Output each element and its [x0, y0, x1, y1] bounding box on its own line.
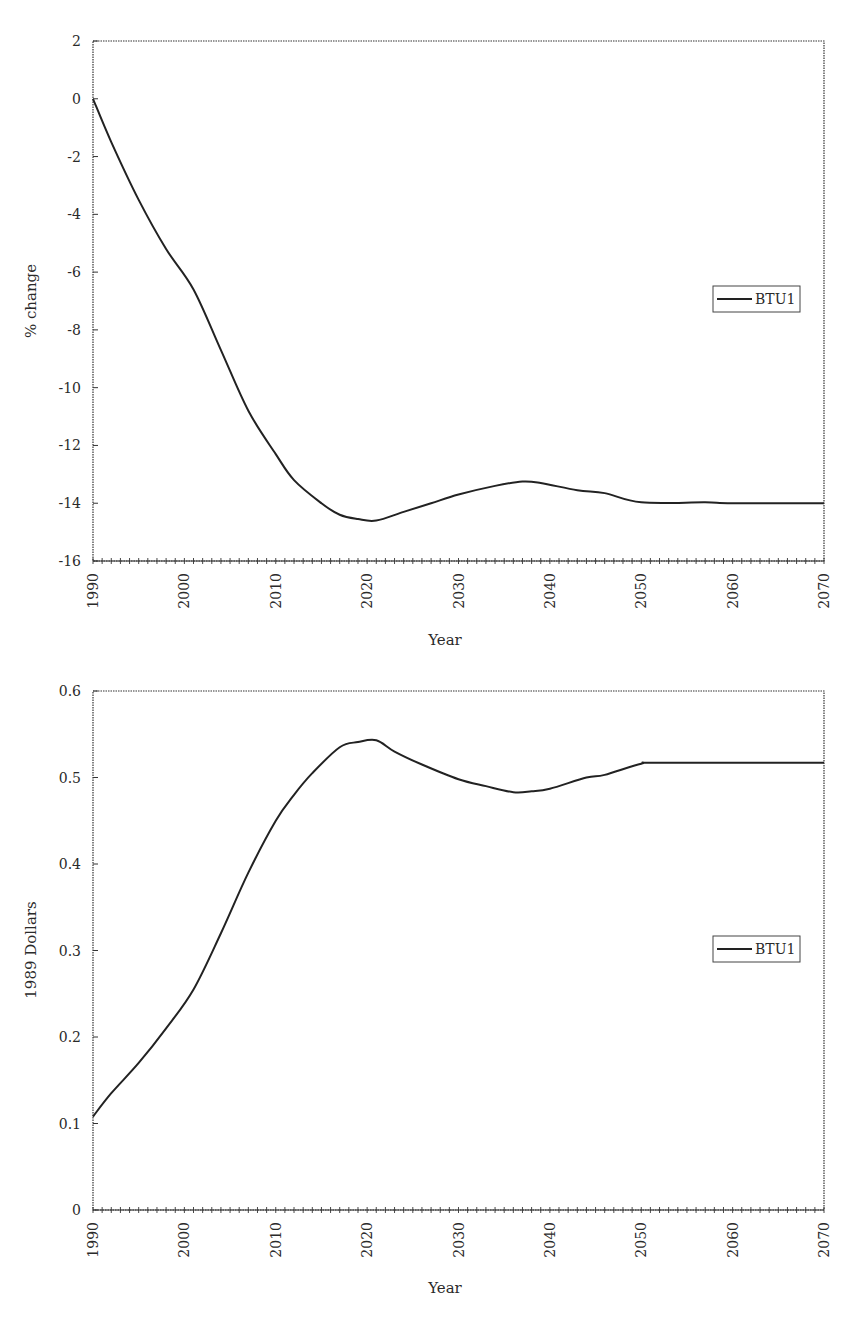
- y-tick-label: 0: [72, 91, 81, 107]
- y-tick-label: -12: [58, 437, 81, 453]
- x-tick-label: 2050: [633, 573, 649, 609]
- legend-label: BTU1: [755, 941, 795, 957]
- y-tick-label: 0.4: [59, 856, 81, 872]
- y-tick-label: 2: [72, 33, 81, 49]
- y-ticks: [93, 691, 98, 1210]
- y-tick-labels: 20-2-4-6-8-10-12-14-16: [58, 33, 81, 569]
- chart-2-svg: 0.60.50.40.30.20.10 19902000201020202030…: [0, 660, 854, 1325]
- x-ticks: [93, 1207, 824, 1213]
- legend: BTU1: [713, 936, 800, 962]
- y-tick-label: -10: [58, 380, 81, 396]
- y-ticks: [93, 41, 98, 561]
- x-tick-label: 2060: [725, 1222, 741, 1258]
- chart-percent-change: 20-2-4-6-8-10-12-14-16 19902000201020202…: [0, 0, 854, 660]
- x-tick-label: 2020: [359, 573, 375, 609]
- y-tick-label: 0: [72, 1202, 81, 1218]
- y-tick-label: -2: [67, 149, 81, 165]
- x-tick-label: 2040: [542, 573, 558, 609]
- x-tick-label: 1990: [85, 1222, 101, 1258]
- legend-label: BTU1: [755, 291, 795, 307]
- x-tick-label: 2000: [176, 573, 192, 609]
- x-tick-labels: 199020002010202020302040205020602070: [85, 573, 832, 609]
- y-tick-label: 0.1: [59, 1116, 81, 1132]
- x-axis-title: Year: [427, 1279, 462, 1297]
- y-tick-label: -4: [67, 206, 81, 222]
- x-tick-label: 2060: [725, 573, 741, 609]
- x-axis-title: Year: [427, 631, 462, 649]
- x-tick-label: 2040: [542, 1222, 558, 1258]
- y-tick-label: 0.2: [59, 1029, 81, 1045]
- x-tick-label: 2030: [451, 573, 467, 609]
- x-tick-label: 2070: [816, 573, 832, 609]
- x-tick-label: 1990: [85, 573, 101, 609]
- legend: BTU1: [713, 286, 800, 312]
- y-tick-label: 0.5: [59, 770, 81, 786]
- y-tick-label: 0.3: [59, 943, 81, 959]
- x-tick-label: 2020: [359, 1222, 375, 1258]
- x-tick-label: 2030: [451, 1222, 467, 1258]
- x-tick-labels: 199020002010202020302040205020602070: [85, 1222, 832, 1258]
- x-tick-label: 2070: [816, 1222, 832, 1258]
- y-tick-label: 0.6: [59, 683, 81, 699]
- series-line-btu1: [93, 740, 824, 1117]
- x-tick-label: 2010: [268, 573, 284, 609]
- x-ticks: [93, 558, 824, 564]
- y-axis-title: 1989 Dollars: [22, 901, 40, 998]
- x-tick-label: 2000: [176, 1222, 192, 1258]
- y-tick-label: -14: [58, 495, 81, 511]
- y-tick-label: -8: [67, 322, 81, 338]
- y-tick-label: -16: [58, 553, 81, 569]
- x-tick-label: 2050: [633, 1222, 649, 1258]
- y-axis-title: % change: [22, 264, 40, 338]
- y-tick-labels: 0.60.50.40.30.20.10: [59, 683, 81, 1218]
- x-tick-label: 2010: [268, 1222, 284, 1258]
- y-tick-label: -6: [67, 264, 81, 280]
- chart-1989-dollars: 0.60.50.40.30.20.10 19902000201020202030…: [0, 660, 854, 1325]
- chart-1-svg: 20-2-4-6-8-10-12-14-16 19902000201020202…: [0, 0, 854, 660]
